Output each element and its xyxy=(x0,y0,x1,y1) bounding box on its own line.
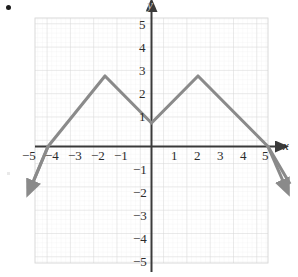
graph-figure: −5 −4 −3 −2 −1 1 2 3 4 5 5 4 3 2 1 −1 −2… xyxy=(0,0,298,277)
xtick-label-5: 5 xyxy=(262,149,269,162)
curve-right-arrow xyxy=(268,147,283,182)
ytick-label-neg2: −2 xyxy=(133,186,147,199)
ytick-label-3: 3 xyxy=(139,64,146,77)
xtick-label-neg2: −2 xyxy=(91,149,105,162)
ytick-label-neg4: −4 xyxy=(133,232,147,245)
xtick-label-neg1: −1 xyxy=(114,149,128,162)
ytick-label-neg5: −5 xyxy=(133,255,147,268)
xtick-label-2: 2 xyxy=(194,149,201,162)
xtick-label-3: 3 xyxy=(217,149,224,162)
x-axis-label: x xyxy=(283,139,289,152)
ytick-label-5: 5 xyxy=(139,18,146,31)
coordinate-plane xyxy=(0,0,298,277)
ytick-label-neg3: −3 xyxy=(133,209,147,222)
ytick-label-4: 4 xyxy=(139,41,146,54)
xtick-label-neg3: −3 xyxy=(68,149,82,162)
ytick-label-neg1: −1 xyxy=(133,163,147,176)
xtick-label-neg5: −5 xyxy=(22,149,36,162)
ytick-label-1: 1 xyxy=(139,110,146,123)
y-axis-label: y xyxy=(147,0,153,11)
xtick-label-4: 4 xyxy=(240,149,247,162)
ytick-label-2: 2 xyxy=(139,87,146,100)
xtick-label-neg4: −4 xyxy=(45,149,59,162)
xtick-label-1: 1 xyxy=(171,149,178,162)
